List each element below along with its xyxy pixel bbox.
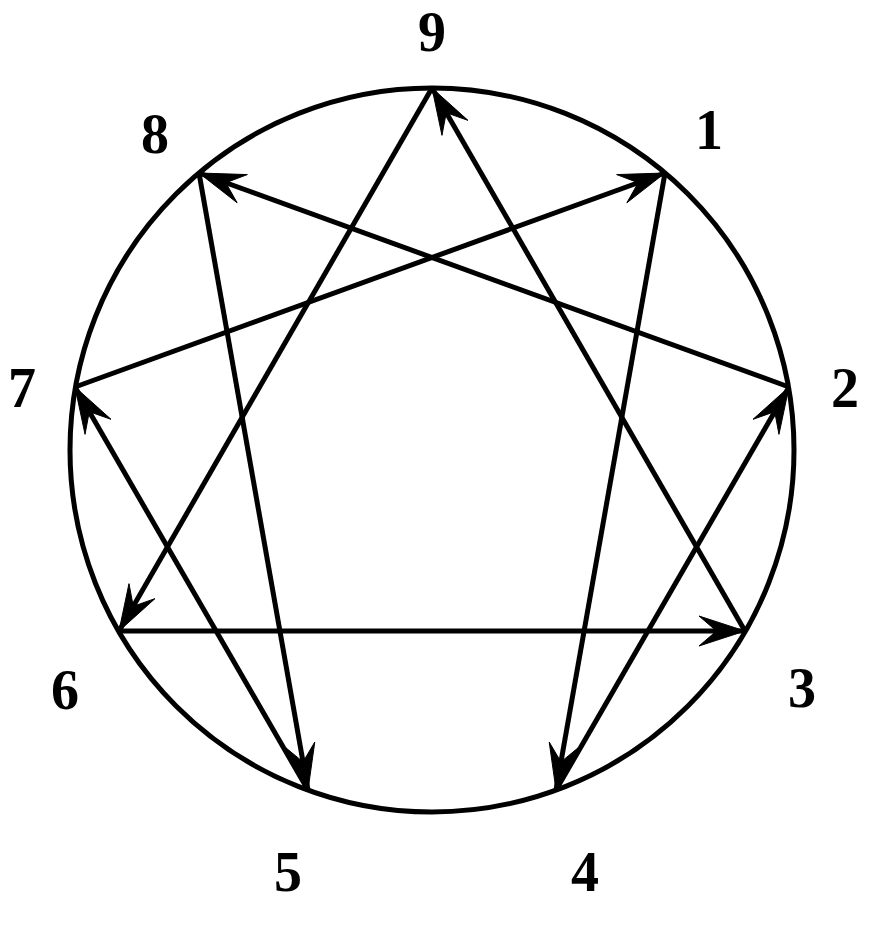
node-label-4: 4 (571, 844, 599, 900)
arrow-9-to-6 (119, 88, 432, 631)
node-label-3: 3 (788, 660, 816, 716)
arrow-3-to-9-shaft (432, 88, 745, 631)
arrow-9-to-6-shaft (119, 88, 432, 631)
enneagram-arrow-layer (75, 88, 789, 790)
node-label-2: 2 (831, 360, 859, 416)
arrow-6-to-3 (119, 616, 745, 646)
arrow-5-to-7-head (75, 387, 111, 434)
node-label-7: 7 (8, 360, 36, 416)
enneagram-canvas (0, 0, 874, 936)
node-label-9: 9 (418, 4, 446, 60)
arrow-4-to-2-head (753, 387, 789, 434)
node-label-5: 5 (274, 844, 302, 900)
node-label-1: 1 (695, 102, 723, 158)
enneagram-figure: 912345678 (0, 0, 874, 936)
node-label-6: 6 (51, 662, 79, 718)
arrow-3-to-9-head (432, 88, 468, 135)
arrow-9-to-6-head (119, 584, 155, 631)
node-label-8: 8 (141, 106, 169, 162)
arrow-3-to-9 (432, 88, 745, 631)
enneagram-circle (70, 88, 794, 812)
